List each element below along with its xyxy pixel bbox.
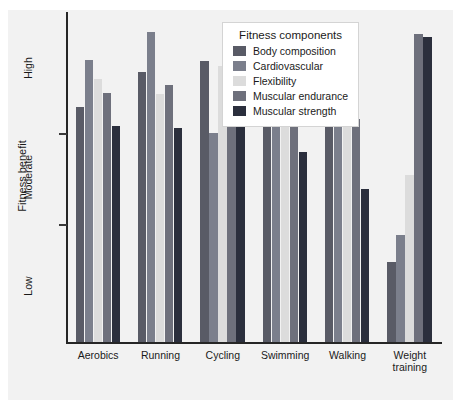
legend-item-label: Cardiovascular xyxy=(253,60,323,72)
bar xyxy=(396,235,404,342)
y-axis-tick-1 xyxy=(59,224,67,226)
x-axis-line xyxy=(66,342,442,344)
legend-swatch-icon xyxy=(233,91,246,101)
bar xyxy=(325,118,333,342)
bar xyxy=(112,126,120,342)
bar xyxy=(227,114,235,343)
x-axis-tick-label: Weight training xyxy=(365,349,455,373)
bar xyxy=(343,103,351,342)
bar xyxy=(85,60,93,342)
bar xyxy=(405,175,413,342)
bar xyxy=(236,115,244,342)
bar xyxy=(103,93,111,342)
bar xyxy=(165,85,173,342)
y-axis-title: Fitness benefit xyxy=(16,126,28,226)
bar-group xyxy=(379,14,441,342)
bar xyxy=(361,189,369,342)
legend-swatch-icon xyxy=(233,46,246,56)
legend-swatch-icon xyxy=(233,76,246,86)
bar xyxy=(174,128,182,342)
legend-item-label: Muscular strength xyxy=(253,105,336,117)
bar-group xyxy=(67,14,129,342)
legend-title: Fitness components xyxy=(233,29,348,41)
bar xyxy=(147,32,155,343)
legend-item: Cardiovascular xyxy=(233,59,348,73)
legend-item: Body composition xyxy=(233,44,348,58)
bar xyxy=(352,119,360,342)
legend-swatch-icon xyxy=(233,106,246,116)
bar xyxy=(387,262,395,342)
bar xyxy=(414,34,422,342)
bar xyxy=(299,152,307,342)
legend-entries: Body compositionCardiovascularFlexibilit… xyxy=(233,44,348,118)
legend: Fitness components Body compositionCardi… xyxy=(222,22,359,127)
y-axis-tick-label-high: High xyxy=(22,40,34,96)
legend-item-label: Body composition xyxy=(253,45,336,57)
legend-swatch-icon xyxy=(233,61,246,71)
y-axis-tick-0 xyxy=(59,133,67,135)
legend-item: Muscular endurance xyxy=(233,89,348,103)
legend-item-label: Flexibility xyxy=(253,75,296,87)
fitness-benefit-bar-chart: HighModerateLow Fitness benefit Aerobics… xyxy=(0,0,461,411)
bar xyxy=(290,116,298,342)
bar xyxy=(138,72,146,342)
bar xyxy=(423,37,431,342)
bar xyxy=(209,133,217,342)
bar-group xyxy=(129,14,191,342)
legend-item: Flexibility xyxy=(233,74,348,88)
bar xyxy=(200,61,208,342)
legend-item: Muscular strength xyxy=(233,104,348,118)
legend-item-label: Muscular endurance xyxy=(253,90,348,102)
bar xyxy=(156,94,164,342)
y-axis-tick-label-low: Low xyxy=(22,258,34,314)
bar xyxy=(76,107,84,342)
bar xyxy=(94,79,102,342)
